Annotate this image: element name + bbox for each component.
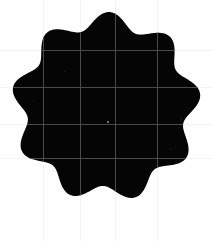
figure-svg	[0, 0, 213, 241]
speckle-1	[170, 149, 171, 150]
image-canvas	[0, 0, 213, 241]
center-marker-dot	[107, 121, 109, 123]
speckle-3	[150, 172, 151, 173]
speckle-0	[181, 118, 182, 119]
speckle-2	[33, 101, 34, 102]
speckle-4	[64, 71, 65, 72]
